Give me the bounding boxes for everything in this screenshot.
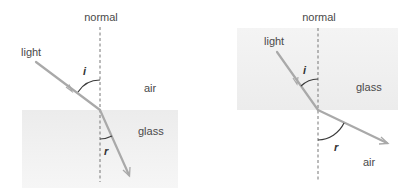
angle-r-label: r (334, 141, 339, 153)
air-label: air (363, 156, 376, 168)
angle-r-arc (318, 123, 344, 140)
glass-label: glass (138, 125, 164, 137)
diagram-glass-to-air: normal light i glass r air (237, 11, 398, 182)
light-label: light (264, 35, 284, 47)
refraction-diagrams: normal light i air glass r normal light … (0, 0, 412, 191)
normal-label: normal (84, 11, 118, 23)
diagram-air-to-glass: normal light i air glass r (21, 11, 178, 188)
angle-i-arc (78, 80, 100, 92)
glass-label: glass (356, 81, 382, 93)
light-label: light (21, 46, 41, 58)
air-label: air (144, 82, 157, 94)
angle-i-label: i (83, 65, 87, 77)
angle-r-label: r (104, 145, 109, 157)
normal-label: normal (302, 11, 336, 23)
incident-ray (36, 62, 100, 110)
